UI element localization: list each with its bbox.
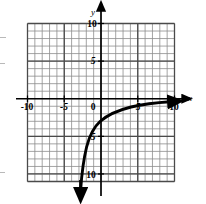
scan-artifact-left-top	[0, 37, 6, 38]
y-tick-label-neg5: 5	[91, 132, 96, 142]
x-tick-label-origin: 0	[91, 102, 96, 112]
y-tick-label-neg10: 10	[86, 170, 96, 180]
scan-artifact-left-bottom	[0, 172, 5, 173]
x-tick-label-neg5: -5	[60, 102, 68, 112]
y-tick-label-10: 10	[87, 19, 97, 29]
x-tick-label-5: 5	[136, 102, 141, 112]
x-tick-label-neg10: -10	[21, 102, 34, 112]
graph-canvas: x y -10 -5 0 5 10 10 5 5 10	[0, 0, 206, 204]
graph-figure: x y -10 -5 0 5 10 10 5 5 10	[0, 0, 206, 204]
x-tick-label-10: 10	[169, 102, 179, 112]
y-axis-label: y	[90, 7, 95, 17]
x-axis-label: x	[187, 93, 192, 103]
scan-artifact-left-mid	[0, 63, 5, 64]
y-tick-label-5: 5	[91, 56, 96, 66]
